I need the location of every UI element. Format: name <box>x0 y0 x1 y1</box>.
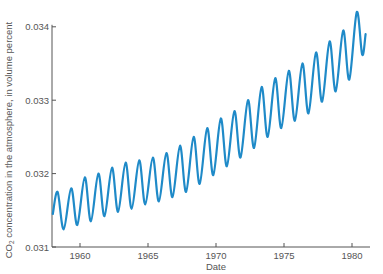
x-tick-label: 1970 <box>205 250 226 261</box>
x-tick-label: 1965 <box>137 250 158 261</box>
y-tick-label: 0.033 <box>25 95 49 106</box>
y-axis-title: CO2 concentration in the atmosphere, in … <box>3 21 15 258</box>
x-tick-label: 1960 <box>69 250 90 261</box>
y-axis: 0.0310.0320.0330.034 <box>25 21 56 252</box>
y-axis-title-post: concentration in the atmosphere, in volu… <box>3 21 14 240</box>
co2-chart: 0.0310.0320.0330.034 1960196519701975198… <box>0 0 383 274</box>
y-axis-title-pre: CO <box>3 244 14 258</box>
y-tick-label: 0.032 <box>25 168 49 179</box>
y-tick-label: 0.031 <box>25 242 49 253</box>
x-axis-title: Date <box>206 261 226 272</box>
x-tick-label: 1980 <box>341 250 362 261</box>
y-tick-label: 0.034 <box>25 21 49 32</box>
x-tick-label: 1975 <box>273 250 294 261</box>
x-axis: 19601965197019751980 <box>52 243 370 261</box>
co2-line <box>53 12 366 230</box>
